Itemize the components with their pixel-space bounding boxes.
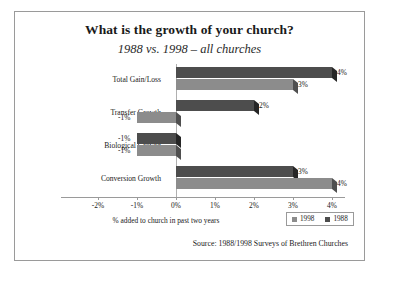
bar-1988-conversion-growth xyxy=(176,166,293,177)
category-label-conversion-growth: Conversion Growth xyxy=(41,174,161,183)
bar-face xyxy=(137,112,176,123)
legend-swatch-1998 xyxy=(292,217,297,222)
x-tick-mark xyxy=(332,197,333,200)
x-tick-label-2: 2% xyxy=(241,201,267,210)
x-tick-label-neg2: -2% xyxy=(85,201,111,210)
chart-legend: 1998 1988 xyxy=(286,212,354,226)
bar-1988-biological-growth xyxy=(137,133,176,144)
bar-1988-transfer-growth xyxy=(176,100,254,111)
x-tick-mark xyxy=(215,197,216,200)
value-label-1988-biological-growth: -1% xyxy=(118,134,130,143)
chart-subtitle: 1988 vs. 1998 – all churches xyxy=(15,42,364,57)
x-tick-label-neg1: -1% xyxy=(124,201,150,210)
value-label-1988-conversion-growth: 3% xyxy=(298,167,308,176)
bar-1988-total-gain-loss xyxy=(176,67,332,78)
bar-face xyxy=(137,145,176,156)
bar-face xyxy=(176,100,254,111)
x-tick-mark xyxy=(293,197,294,200)
x-tick-mark xyxy=(254,197,255,200)
value-label-1988-transfer-growth: 2% xyxy=(259,101,269,110)
value-label-1998-transfer-growth: -1% xyxy=(118,113,130,122)
x-tick-label-4: 4% xyxy=(319,201,345,210)
x-tick-mark xyxy=(98,197,99,200)
bar-face xyxy=(176,67,332,78)
x-tick-mark xyxy=(137,197,138,200)
source-note: Source: 1988/1998 Surveys of Brethren Ch… xyxy=(15,239,348,248)
value-label-1998-conversion-growth: 4% xyxy=(337,179,347,188)
bar-face xyxy=(176,79,293,90)
x-tick-label-0: 0% xyxy=(163,201,189,210)
value-label-1988-total-gain-loss: 4% xyxy=(337,68,347,77)
bar-face xyxy=(176,178,332,189)
legend-label-1998: 1998 xyxy=(300,215,314,223)
value-label-1998-biological-growth: -1% xyxy=(118,146,130,155)
plot-area: Total Gain/Loss Transfer Growth Biologic… xyxy=(15,64,366,202)
bar-face xyxy=(176,166,293,177)
bar-1998-biological-growth xyxy=(137,145,176,156)
chart-frame: What is the growth of your church? 1988 … xyxy=(14,11,365,261)
legend-swatch-1988 xyxy=(325,217,330,222)
category-label-total-gain-loss: Total Gain/Loss xyxy=(41,75,161,84)
chart-title: What is the growth of your church? xyxy=(15,22,364,38)
x-axis-line xyxy=(61,197,345,198)
value-label-1998-total-gain-loss: 3% xyxy=(298,80,308,89)
legend-item-1998: 1998 xyxy=(292,215,314,223)
x-tick-label-1: 1% xyxy=(202,201,228,210)
bar-1998-total-gain-loss xyxy=(176,79,293,90)
legend-label-1988: 1988 xyxy=(333,215,347,223)
x-axis-title: % added to church in past two years xyxy=(61,216,271,225)
bar-1998-conversion-growth xyxy=(176,178,332,189)
x-tick-label-3: 3% xyxy=(280,201,306,210)
bar-face xyxy=(137,133,176,144)
x-tick-mark xyxy=(176,197,177,200)
bar-1998-transfer-growth xyxy=(137,112,176,123)
legend-item-1988: 1988 xyxy=(325,215,347,223)
